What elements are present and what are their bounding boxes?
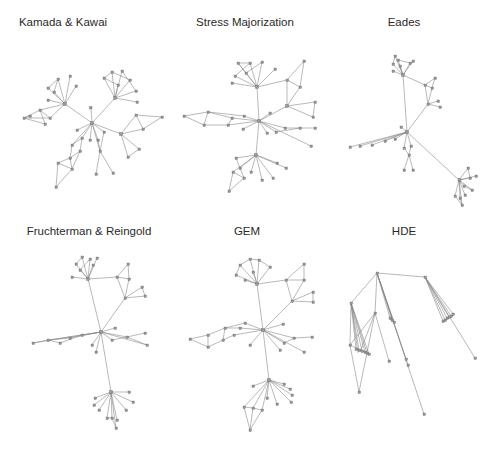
graph-layouts-canvas	[0, 0, 498, 452]
graph-stress-majorization	[183, 60, 317, 193]
graph-kamada-kawai	[23, 70, 164, 189]
graph-hde	[349, 272, 477, 416]
graph-gem	[189, 258, 315, 432]
graph-fruchterman-reingold	[32, 256, 149, 430]
graph-node	[91, 122, 94, 125]
graph-eades	[349, 55, 478, 207]
